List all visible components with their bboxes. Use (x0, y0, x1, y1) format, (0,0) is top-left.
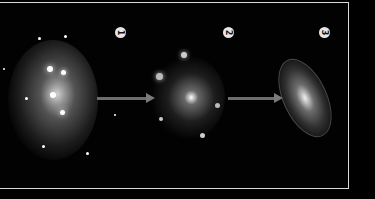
star (60, 110, 65, 115)
stage-3-number-badge: 3 (319, 27, 330, 38)
star (25, 97, 28, 100)
stage-2-protogalaxy (150, 55, 225, 140)
star (215, 103, 220, 108)
star (156, 73, 163, 80)
stage-2-number-badge: 2 (223, 27, 234, 38)
star (181, 52, 187, 58)
arrow-2-to-3 (228, 97, 275, 100)
star (200, 133, 205, 138)
star (3, 68, 5, 70)
stage-1-cloud (8, 40, 98, 160)
star (86, 152, 89, 155)
arrow-1-to-2 (97, 97, 147, 100)
star (64, 35, 67, 38)
star (50, 92, 56, 98)
star (42, 145, 45, 148)
star (47, 66, 53, 72)
star (114, 114, 116, 116)
stage-1-number-badge: 1 (115, 27, 126, 38)
star (159, 117, 163, 121)
star (38, 37, 41, 40)
star (61, 70, 66, 75)
